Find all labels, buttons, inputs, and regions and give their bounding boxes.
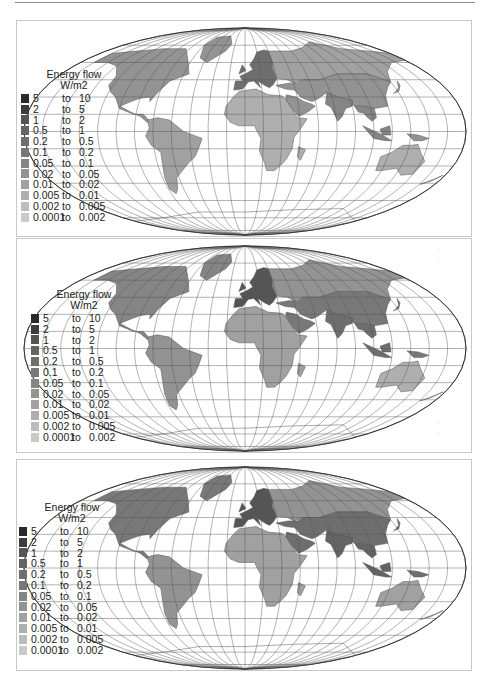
- legend-swatch: [19, 581, 27, 590]
- legend-swatch: [21, 202, 29, 211]
- legend-swatch: [31, 422, 39, 431]
- legend-from: 0.0001: [33, 212, 62, 223]
- legend-swatch: [31, 400, 39, 409]
- map-panel-1: Energy flow W/m2 5to102to51to20.5to10.2t…: [16, 20, 472, 237]
- legend-class-row: 0.05to0.1: [31, 378, 129, 389]
- legend-swatch: [31, 314, 39, 323]
- legend-swatch: [31, 346, 39, 355]
- legend-to: 5: [79, 104, 85, 115]
- legend-to-word: to: [72, 432, 89, 443]
- legend-to: 0.1: [79, 158, 94, 169]
- legend-to: 0.1: [89, 378, 104, 389]
- legend-swatch: [21, 115, 29, 124]
- legend-to: 0.002: [77, 645, 103, 656]
- legend-swatch: [19, 602, 27, 611]
- legend-class-row: 2to5: [21, 104, 119, 115]
- legend-to: 5: [89, 324, 95, 335]
- legend-to-word: to: [60, 591, 77, 602]
- legend-title: Energy flow W/m2: [27, 502, 117, 524]
- legend-to: 0.002: [89, 432, 115, 443]
- legend-class-row: 2to5: [19, 537, 117, 548]
- scan-artifact: ··: [437, 419, 440, 437]
- legend-to-word: to: [62, 212, 79, 223]
- legend-swatch: [19, 559, 27, 568]
- legend-rows: 5to102to51to20.5to10.2to0.50.1to0.20.05t…: [21, 93, 119, 223]
- legend: Energy flow W/m2 5to102to51to20.5to10.2t…: [21, 69, 119, 223]
- legend-rows: 5to102to51to20.5to10.2to0.50.1to0.20.05t…: [19, 526, 117, 656]
- legend-swatch: [19, 527, 27, 536]
- legend-swatch: [21, 137, 29, 146]
- legend-swatch: [21, 191, 29, 200]
- scan-artifact: ··: [437, 245, 440, 263]
- legend-swatch: [31, 335, 39, 344]
- legend-from: 2: [43, 324, 72, 335]
- legend: Energy flow W/m2 5to102to51to20.5to10.2t…: [19, 502, 117, 656]
- legend-to-word: to: [62, 104, 79, 115]
- legend-swatch: [19, 613, 27, 622]
- legend-swatch: [31, 389, 39, 398]
- legend-from: 0.0001: [31, 645, 60, 656]
- legend-swatch: [19, 592, 27, 601]
- map-panel-2: Energy flow W/m2 5to102to51to20.5to10.2t…: [16, 238, 472, 453]
- legend-title: Energy flow W/m2: [29, 69, 119, 91]
- legend-class-row: 0.0001to0.002: [19, 645, 117, 656]
- top-rule: [15, 2, 475, 3]
- legend-to: 0.002: [79, 212, 105, 223]
- legend-swatch: [19, 635, 27, 644]
- legend-to-word: to: [62, 158, 79, 169]
- legend-swatch: [21, 180, 29, 189]
- legend-swatch: [31, 368, 39, 377]
- legend-swatch: [21, 148, 29, 157]
- legend-swatch: [21, 169, 29, 178]
- legend-swatch: [31, 325, 39, 334]
- legend-to: 5: [77, 537, 83, 548]
- legend-swatch: [31, 433, 39, 442]
- legend-class-row: 2to5: [31, 324, 129, 335]
- legend-from: 0.0001: [43, 432, 72, 443]
- legend: Energy flow W/m2 5to102to51to20.5to10.2t…: [31, 289, 129, 443]
- legend-from: 2: [31, 537, 60, 548]
- legend-swatch: [31, 411, 39, 420]
- legend-swatch: [21, 213, 29, 222]
- legend-swatch: [19, 570, 27, 579]
- legend-class-row: 0.05to0.1: [19, 591, 117, 602]
- legend-to-word: to: [72, 324, 89, 335]
- legend-title-line2: W/m2: [29, 80, 119, 91]
- legend-from: 2: [33, 104, 62, 115]
- legend-swatch: [21, 126, 29, 135]
- legend-to-word: to: [72, 378, 89, 389]
- legend-swatch: [21, 159, 29, 168]
- legend-swatch: [19, 548, 27, 557]
- legend-swatch: [19, 538, 27, 547]
- legend-title-line2: W/m2: [39, 300, 129, 311]
- legend-title-line2: W/m2: [27, 513, 117, 524]
- legend-swatch: [21, 94, 29, 103]
- legend-class-row: 0.05to0.1: [21, 158, 119, 169]
- legend-swatch: [31, 357, 39, 366]
- legend-swatch: [19, 624, 27, 633]
- legend-to-word: to: [60, 537, 77, 548]
- legend-class-row: 0.0001to0.002: [31, 432, 129, 443]
- legend-class-row: 0.0001to0.002: [21, 212, 119, 223]
- legend-swatch: [31, 379, 39, 388]
- legend-title: Energy flow W/m2: [39, 289, 129, 311]
- legend-to-word: to: [60, 645, 77, 656]
- legend-to: 0.1: [77, 591, 92, 602]
- map-panel-3: Energy flow W/m2 5to102to51to20.5to10.2t…: [16, 459, 472, 671]
- legend-rows: 5to102to51to20.5to10.2to0.50.1to0.20.05t…: [31, 313, 129, 443]
- legend-swatch: [19, 646, 27, 655]
- legend-from: 0.05: [31, 591, 60, 602]
- legend-from: 0.05: [33, 158, 62, 169]
- legend-from: 0.05: [43, 378, 72, 389]
- legend-swatch: [21, 105, 29, 114]
